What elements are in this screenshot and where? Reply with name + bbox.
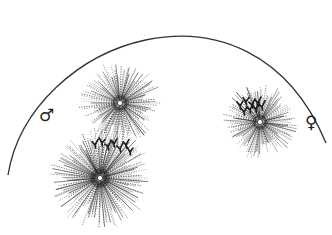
upper-male-aster: [79, 65, 160, 144]
egg-membrane-arc: [8, 36, 326, 175]
asters-group: [50, 65, 298, 228]
lower-male-aster: [50, 127, 149, 228]
female-aster: [222, 86, 297, 159]
female-symbol-icon: ♀: [305, 114, 317, 131]
male-symbol-icon: ♂: [39, 107, 54, 124]
spindle-chromosome: [105, 141, 111, 150]
fertilization-diagram: ♂ ♀: [0, 0, 332, 235]
